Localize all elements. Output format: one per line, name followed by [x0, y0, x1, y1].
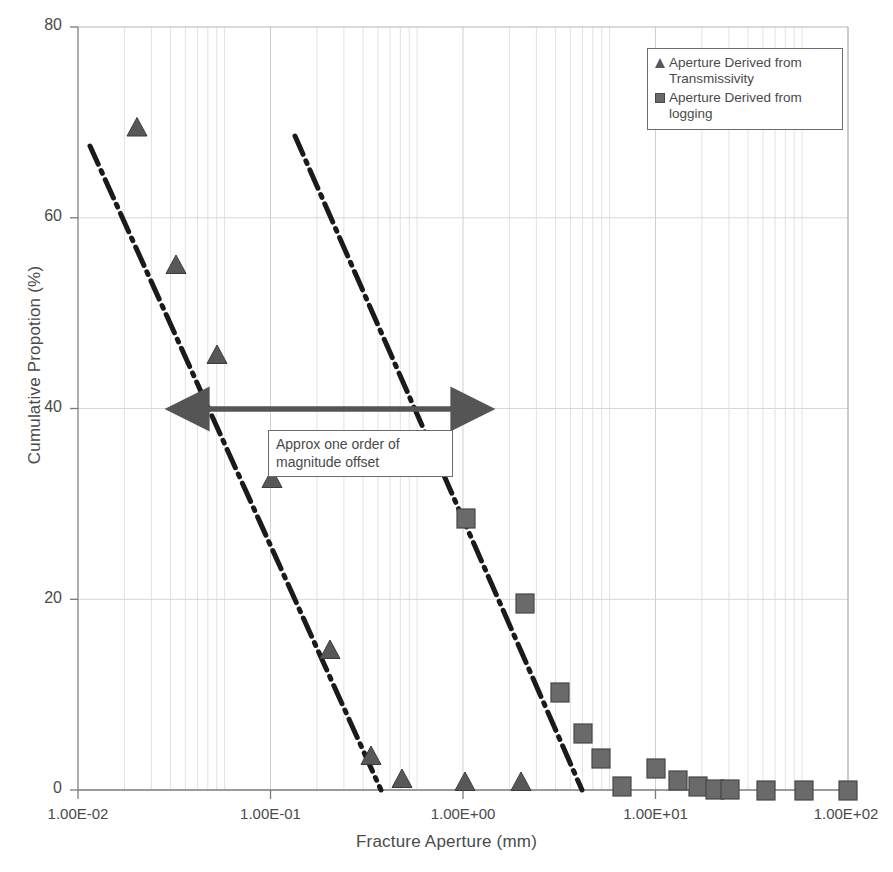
x-axis-title: Fracture Aperture (mm)	[0, 832, 893, 852]
legend-item-logging[interactable]: Aperture Derived from logging	[654, 90, 836, 122]
data-point	[689, 777, 707, 796]
y-axis-title: Cumulative Propotion (%)	[25, 235, 45, 495]
legend-label-line2: logging	[669, 106, 713, 121]
legend-label-line2: Transmissivity	[669, 71, 754, 86]
x-tick-label-1: 1.00E-02	[18, 805, 138, 822]
annotation-line1: Approx one order of	[276, 435, 445, 453]
triangle-icon	[654, 55, 667, 71]
y-tick-label-80: 80	[2, 16, 62, 34]
x-tick-label-4: 1.00E+01	[596, 805, 716, 822]
offset-annotation-box: Approx one order of magnitude offset	[268, 430, 453, 477]
legend-item-transmissivity[interactable]: Aperture Derived from Transmissivity	[654, 55, 836, 87]
legend-label-line1: Aperture Derived from	[669, 90, 802, 105]
data-point	[457, 509, 475, 528]
data-point	[613, 777, 631, 796]
annotation-line2: magnitude offset	[276, 453, 445, 471]
chart-figure: 80 60 40 20 0 1.00E-02 1.00E-01 1.00E+00…	[0, 0, 893, 872]
data-point	[721, 780, 739, 799]
x-tick-label-2: 1.00E-01	[211, 805, 331, 822]
chart-legend: Aperture Derived from Transmissivity Ape…	[647, 48, 843, 130]
x-tick-label-5: 1.00E+02	[786, 805, 893, 822]
y-tick-label-60: 60	[2, 207, 62, 225]
y-tick-marks	[70, 27, 78, 790]
legend-label-line1: Aperture Derived from	[669, 55, 802, 70]
legend-item-label: Aperture Derived from Transmissivity	[669, 55, 836, 87]
data-point	[574, 724, 592, 743]
square-icon	[654, 90, 667, 106]
data-point	[757, 781, 775, 800]
x-tick-label-3: 1.00E+00	[403, 805, 523, 822]
data-point	[551, 683, 569, 702]
data-point	[592, 749, 610, 768]
data-point	[516, 594, 534, 613]
y-tick-label-0: 0	[2, 779, 62, 797]
y-tick-label-20: 20	[2, 589, 62, 607]
data-point	[647, 759, 665, 778]
data-point	[669, 771, 687, 790]
legend-item-label: Aperture Derived from logging	[669, 90, 836, 122]
data-point	[839, 781, 857, 800]
data-point	[795, 781, 813, 800]
